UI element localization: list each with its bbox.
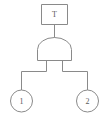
fault-tree-canvas: T 1 2: [0, 0, 108, 121]
wire-gate-to-basic-event-1: [22, 61, 47, 91]
top-event-label: T: [52, 10, 57, 19]
basic-event-label-2: 2: [86, 97, 90, 106]
fault-tree-diagram: T 1 2: [0, 0, 108, 121]
basic-event-label-1: 1: [20, 97, 24, 106]
wire-gate-to-basic-event-2: [63, 61, 88, 91]
and-gate-symbol[interactable]: [38, 38, 72, 61]
